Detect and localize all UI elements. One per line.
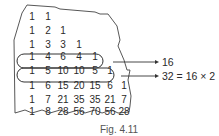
triangle-cell: 6 (41, 81, 55, 91)
triangle-cell: 1 (25, 66, 39, 76)
triangle-cell: 21 (56, 95, 70, 105)
triangle-cell: 6 (103, 81, 117, 91)
triangle-cell: 7 (41, 95, 55, 105)
triangle-cell: 28 (117, 107, 131, 117)
triangle-cell: 1 (56, 26, 70, 36)
triangle-cell: 4 (72, 52, 86, 62)
triangle-cell: 15 (56, 81, 70, 91)
triangle-cell: 8 (41, 107, 55, 117)
triangle-cell: 1 (117, 81, 131, 91)
pascal-triangle-figure: 1112113311464115101051161520156117213535… (0, 0, 219, 136)
triangle-cell: 1 (25, 12, 39, 22)
triangle-cell: 56 (103, 107, 117, 117)
triangle-cell: 10 (56, 66, 70, 76)
triangle-cell: 35 (72, 95, 86, 105)
triangle-cell: 10 (72, 66, 86, 76)
triangle-cell: 1 (25, 107, 39, 117)
arrowhead-icon (155, 74, 159, 78)
figure-caption: Fig. 4.11 (100, 124, 138, 135)
triangle-cell: 35 (88, 95, 102, 105)
triangle-cell: 21 (103, 95, 117, 105)
triangle-cell: 2 (41, 26, 55, 36)
triangle-cell: 3 (41, 40, 55, 50)
annotation-16: 16 (162, 57, 174, 68)
triangle-cell: 1 (25, 40, 39, 50)
triangle-cell: 1 (103, 66, 117, 76)
triangle-cell: 3 (56, 40, 70, 50)
triangle-cell: 1 (25, 26, 39, 36)
triangle-cell: 56 (72, 107, 86, 117)
arrowhead-icon (155, 60, 159, 64)
triangle-cell: 7 (117, 95, 131, 105)
triangle-cell: 70 (88, 107, 102, 117)
triangle-cell: 15 (88, 81, 102, 91)
triangle-cell: 5 (88, 66, 102, 76)
triangle-cell: 6 (56, 52, 70, 62)
triangle-cell: 20 (72, 81, 86, 91)
triangle-cell: 1 (88, 52, 102, 62)
triangle-cell: 1 (25, 81, 39, 91)
triangle-cell: 1 (25, 52, 39, 62)
triangle-cell: 1 (72, 40, 86, 50)
triangle-cell: 5 (41, 66, 55, 76)
annotation-32: 32 = 16 × 2 (162, 71, 215, 82)
triangle-cell: 1 (41, 12, 55, 22)
triangle-cell: 4 (41, 52, 55, 62)
triangle-cell: 1 (25, 95, 39, 105)
triangle-cell: 28 (56, 107, 70, 117)
